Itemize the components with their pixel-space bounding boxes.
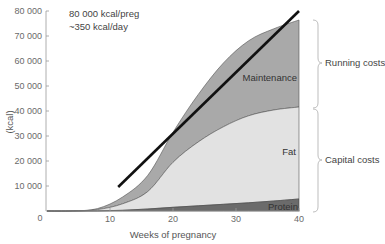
x-tick-label: 30	[231, 214, 241, 224]
y-tick-label: 70 000	[14, 31, 42, 41]
y-tick-label: 50 000	[14, 81, 42, 91]
y-tick-label: 0	[37, 213, 42, 223]
running-costs-label: Running costs	[325, 57, 385, 68]
y-tick-label: 80 000	[14, 6, 42, 16]
energy-cost-chart: 010 00020 00030 00040 00050 00060 00070 …	[0, 0, 385, 244]
x-tick-label: 20	[168, 214, 178, 224]
capital-costs-bracket	[313, 109, 322, 212]
y-tick-label: 20 000	[14, 156, 42, 166]
y-tick-label: 60 000	[14, 56, 42, 66]
running-costs-bracket	[313, 20, 322, 108]
y-tick-label: 10 000	[14, 181, 42, 191]
daily-energy-annotation: ~350 kcal/day	[69, 21, 128, 32]
y-tick-label: 30 000	[14, 131, 42, 141]
maintenance-label: Maintenance	[243, 72, 297, 83]
y-tick-label: 40 000	[14, 106, 42, 116]
y-axis-title: (kcal)	[4, 110, 15, 133]
x-tick-label: 10	[105, 214, 115, 224]
y-axis: 010 00020 00030 00040 00050 00060 00070 …	[14, 6, 49, 223]
capital-costs-label: Capital costs	[325, 154, 380, 165]
fat-label: Fat	[282, 146, 296, 157]
total-energy-annotation: 80 000 kcal/preg	[69, 8, 139, 19]
x-axis-title: Weeks of pregnancy	[130, 229, 217, 240]
protein-label: Protein	[268, 201, 298, 212]
x-tick-label: 40	[294, 214, 304, 224]
